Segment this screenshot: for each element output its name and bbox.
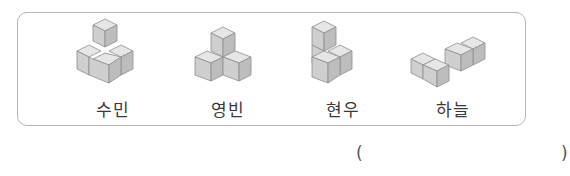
cube-stack-haneul-icon (403, 13, 523, 103)
cube-stack-yeongbin-icon (173, 13, 283, 103)
figure-haneul: 하늘 (403, 13, 513, 127)
figure-panel: 수민 영빈 (17, 12, 526, 126)
figure-label: 하늘 (398, 96, 508, 121)
figure-hyeonu: 현우 (288, 13, 398, 127)
cube-stack-sumin-icon (58, 13, 168, 103)
answer-open-paren: ( (356, 143, 363, 163)
figure-label: 수민 (58, 96, 168, 121)
answer-close-paren: ) (561, 143, 568, 163)
cube-stack-hyeonu-icon (288, 13, 398, 103)
figure-label: 영빈 (173, 96, 283, 121)
figure-yeongbin: 영빈 (173, 13, 283, 127)
figure-label: 현우 (288, 96, 398, 121)
figure-sumin: 수민 (58, 13, 168, 127)
answer-blank[interactable] (368, 143, 558, 163)
